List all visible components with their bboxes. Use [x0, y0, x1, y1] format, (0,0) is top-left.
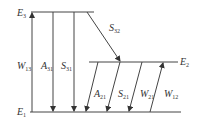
w13-label: W13: [17, 60, 31, 72]
w21-label: W21: [140, 88, 154, 100]
s21-arrow: [107, 62, 120, 111]
s32-arrow: [87, 12, 120, 61]
s32-label: S32: [109, 22, 120, 34]
level-e3-label: E3: [16, 7, 26, 19]
level-e1-label: E1: [16, 106, 26, 118]
s31-label: S31: [61, 60, 72, 72]
w21-arrow: [129, 62, 142, 111]
energy-level-diagram: E3 E2 E1 W13 A31 S31 S32 A21 S21 W21 W12: [0, 0, 200, 127]
s21-label: S21: [118, 88, 129, 100]
w12-label: W12: [164, 88, 178, 100]
level-e2-label: E2: [179, 56, 189, 68]
a21-arrow: [86, 62, 98, 111]
a31-label: A31: [40, 60, 53, 72]
a21-label: A21: [93, 88, 106, 100]
w12-arrow: [150, 63, 163, 112]
